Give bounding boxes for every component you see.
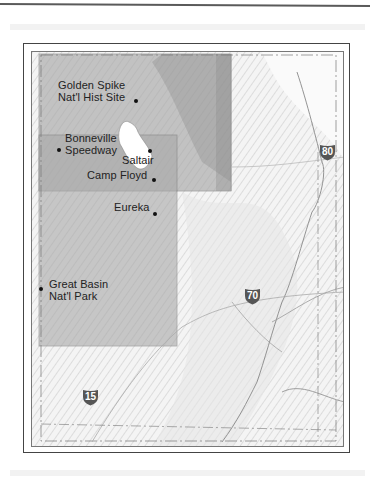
place-bonneville-marker[interactable]: [57, 148, 61, 152]
place-golden-spike-marker[interactable]: [134, 99, 138, 103]
place-golden-spike-label: Golden Spike Nat'l Hist Site: [58, 79, 125, 103]
place-great-basin-marker[interactable]: [39, 287, 43, 291]
place-eureka-marker[interactable]: [153, 212, 157, 216]
header-rule: [0, 3, 370, 7]
ghost-text-band-bottom: [10, 470, 365, 476]
place-saltair-marker[interactable]: [148, 149, 152, 153]
label-line: Nat'l Park: [49, 290, 108, 302]
label-line: Saltair: [122, 154, 154, 166]
label-line: Speedway: [65, 144, 117, 156]
interstate-70-shield-icon: 70: [244, 288, 261, 305]
label-line: Eureka: [114, 201, 149, 213]
highway-number: 15: [82, 391, 99, 403]
place-bonneville-label: Bonneville Speedway: [65, 132, 117, 156]
label-line: Great Basin: [49, 278, 108, 290]
interstate-80-shield-icon: 80: [319, 144, 336, 161]
map-canvas[interactable]: Golden Spike Nat'l Hist Site Bonneville …: [31, 51, 344, 447]
place-camp-floyd-marker[interactable]: [152, 178, 156, 182]
ghost-text-band: [10, 24, 365, 30]
place-great-basin-label: Great Basin Nat'l Park: [49, 278, 108, 302]
label-line: Golden Spike: [58, 79, 125, 91]
label-line: Nat'l Hist Site: [58, 91, 125, 103]
place-camp-floyd-label: Camp Floyd: [87, 169, 147, 181]
label-line: Camp Floyd: [87, 169, 147, 181]
highway-number: 70: [244, 290, 261, 302]
place-saltair-label: Saltair: [122, 154, 154, 166]
label-line: Bonneville: [65, 132, 117, 144]
terrain-map: [32, 52, 344, 447]
highway-number: 80: [319, 146, 336, 158]
interstate-15-shield-icon: 15: [82, 389, 99, 406]
place-eureka-label: Eureka: [114, 201, 149, 213]
